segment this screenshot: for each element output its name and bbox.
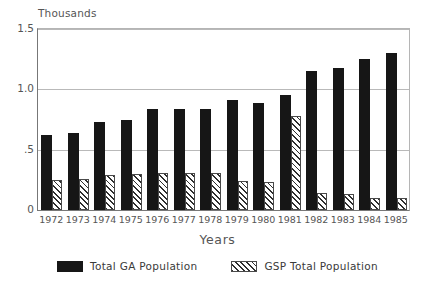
bar-gsp-total-population[interactable] — [211, 173, 221, 210]
bar-gsp-total-population[interactable] — [238, 181, 248, 210]
bars-layer — [38, 29, 409, 210]
bar-group[interactable] — [303, 29, 330, 210]
bar-group[interactable] — [330, 29, 357, 210]
bar-gsp-total-population[interactable] — [132, 174, 142, 210]
bar-total-ga-population[interactable] — [94, 122, 105, 210]
bar-total-ga-population[interactable] — [306, 71, 317, 210]
bar-chart: Thousands 0.51.01.5 19721973197419751976… — [0, 0, 435, 289]
bar-total-ga-population[interactable] — [333, 68, 344, 210]
bar-group[interactable] — [38, 29, 65, 210]
legend-item[interactable]: Total GA Population — [57, 260, 197, 272]
bar-total-ga-population[interactable] — [227, 100, 238, 210]
bar-gsp-total-population[interactable] — [158, 173, 168, 210]
bar-gsp-total-population[interactable] — [317, 193, 327, 210]
bar-total-ga-population[interactable] — [68, 133, 79, 210]
bar-group[interactable] — [91, 29, 118, 210]
bar-total-ga-population[interactable] — [147, 109, 158, 210]
bar-total-ga-population[interactable] — [121, 120, 132, 211]
bar-gsp-total-population[interactable] — [185, 173, 195, 210]
bar-gsp-total-population[interactable] — [105, 175, 115, 210]
x-axis-tick-labels: 1972197319741975197619771978197919801981… — [38, 214, 409, 230]
bar-group[interactable] — [65, 29, 92, 210]
y-axis-tick-label: 1.0 — [0, 82, 34, 94]
bar-group[interactable] — [383, 29, 410, 210]
bar-group[interactable] — [144, 29, 171, 210]
legend-item-label: Total GA Population — [90, 260, 197, 272]
legend-swatch-solid-icon — [57, 261, 83, 272]
bar-group[interactable] — [171, 29, 198, 210]
bar-gsp-total-population[interactable] — [264, 182, 274, 210]
bar-total-ga-population[interactable] — [359, 59, 370, 210]
bar-gsp-total-population[interactable] — [344, 194, 354, 210]
bar-group[interactable] — [224, 29, 251, 210]
y-axis-unit-label: Thousands — [38, 7, 97, 19]
x-axis-title: Years — [0, 232, 435, 247]
bar-gsp-total-population[interactable] — [79, 179, 89, 210]
bar-group[interactable] — [118, 29, 145, 210]
bar-total-ga-population[interactable] — [280, 95, 291, 210]
y-axis-tick-label: .5 — [0, 143, 34, 155]
bar-group[interactable] — [277, 29, 304, 210]
chart-legend: Total GA PopulationGSP Total Population — [0, 260, 435, 272]
bar-total-ga-population[interactable] — [174, 109, 185, 210]
legend-item-label: GSP Total Population — [264, 260, 378, 272]
bar-total-ga-population[interactable] — [41, 135, 52, 210]
bar-gsp-total-population[interactable] — [52, 180, 62, 210]
bar-group[interactable] — [250, 29, 277, 210]
bar-group[interactable] — [356, 29, 383, 210]
bar-total-ga-population[interactable] — [386, 53, 397, 210]
y-axis-tick-label: 1.5 — [0, 22, 34, 34]
bar-group[interactable] — [197, 29, 224, 210]
bar-gsp-total-population[interactable] — [397, 198, 407, 210]
legend-swatch-hatched-icon — [231, 261, 257, 272]
legend-item[interactable]: GSP Total Population — [231, 260, 378, 272]
x-axis-tick-label: 1985 — [379, 214, 413, 225]
bar-total-ga-population[interactable] — [200, 109, 211, 210]
bar-gsp-total-population[interactable] — [370, 198, 380, 210]
y-axis-tick-label: 0 — [0, 203, 34, 215]
bar-gsp-total-population[interactable] — [291, 116, 301, 210]
bar-total-ga-population[interactable] — [253, 103, 264, 210]
